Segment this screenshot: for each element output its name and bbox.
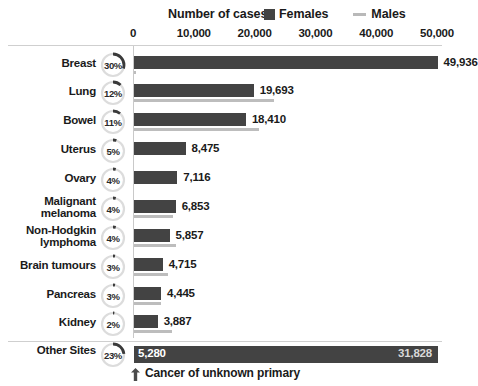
x-tick-label: 40,000 <box>359 27 393 39</box>
bar-value-label: 3,887 <box>164 315 192 327</box>
category-label-line: Ovary <box>0 172 96 184</box>
category-label-line: Breast <box>0 57 96 69</box>
bar-males <box>134 302 161 305</box>
legend-line-swatch-icon <box>353 13 366 16</box>
bar-value-label: 5,857 <box>176 229 204 241</box>
bar-females <box>134 287 161 300</box>
bar-males <box>134 330 172 333</box>
bar-value-label: 19,693 <box>260 84 294 96</box>
table-row: Uterus5%8,475 <box>0 142 448 169</box>
category-label-line: Non-Hodgkin <box>0 225 96 237</box>
axis-title: Number of cases <box>168 7 267 21</box>
bar-females <box>134 171 177 184</box>
percent-badge-label: 12% <box>99 79 127 107</box>
footnote: Cancer of unknown primary <box>131 366 300 380</box>
bar-females <box>134 113 246 126</box>
percent-badge-label: 2% <box>99 310 127 338</box>
table-row: Malignantmelanoma4%6,853 <box>0 200 448 227</box>
table-row: Breast30%49,936 <box>0 56 448 83</box>
category-label: Malignantmelanoma <box>0 196 96 219</box>
bar-other-sites: 5,280 31,828 <box>134 346 438 363</box>
category-label-other-sites: Other Sites <box>0 344 96 356</box>
bar-females <box>134 229 170 242</box>
percent-badge-label-other-sites: 23% <box>99 341 127 369</box>
bar-value-other-sites-left: 5,280 <box>138 347 166 359</box>
arrow-up-icon <box>131 367 140 380</box>
percent-badge-label: 4% <box>99 224 127 252</box>
footnote-text: Cancer of unknown primary <box>145 366 300 380</box>
category-label-line: lymphoma <box>0 237 96 249</box>
legend-item-females: Females <box>264 7 328 21</box>
table-row: Kidney2%3,887 <box>0 315 448 342</box>
bar-males <box>134 215 173 218</box>
x-tick-label: 0 <box>130 27 136 39</box>
category-label: Brain tumours <box>0 259 96 271</box>
chart-legend: Females Males <box>264 7 406 21</box>
table-row: Pancreas3%4,445 <box>0 287 448 314</box>
percent-badge-label: 5% <box>99 137 127 165</box>
bar-females <box>134 200 176 213</box>
category-label-line: melanoma <box>0 208 96 220</box>
x-tick-label: 30,000 <box>298 27 332 39</box>
bar-females <box>134 142 186 155</box>
percent-badge: 4% <box>99 166 127 194</box>
legend-label-females: Females <box>279 7 328 21</box>
category-label: Uterus <box>0 143 96 155</box>
percent-badge-label: 11% <box>99 108 127 136</box>
bar-males <box>134 71 136 74</box>
top-divider <box>8 45 442 46</box>
x-tick-label: 10,000 <box>177 27 211 39</box>
percent-badge-label: 30% <box>99 51 127 79</box>
bar-value-label: 6,853 <box>182 200 210 212</box>
percent-badge: 30% <box>99 51 127 79</box>
category-label: Bowel <box>0 114 96 126</box>
category-label-line: Kidney <box>0 316 96 328</box>
percent-badge-other-sites: 23% <box>99 341 127 369</box>
category-label: Non-Hodgkinlymphoma <box>0 225 96 248</box>
percent-badge: 12% <box>99 79 127 107</box>
bar-males <box>134 244 176 247</box>
bar-males <box>134 273 168 276</box>
bar-females <box>134 56 438 69</box>
category-label-line: Brain tumours <box>0 259 96 271</box>
bar-value-label: 7,116 <box>183 171 210 183</box>
table-row: Bowel11%18,410 <box>0 113 448 140</box>
legend-square-swatch-icon <box>264 9 275 20</box>
table-row: Non-Hodgkinlymphoma4%5,857 <box>0 229 448 256</box>
percent-badge: 2% <box>99 310 127 338</box>
percent-badge: 5% <box>99 137 127 165</box>
x-tick-label: 50,000 <box>420 27 454 39</box>
bar-males <box>134 99 274 102</box>
bar-value-other-sites-right: 31,828 <box>398 347 432 359</box>
category-label-line: Malignant <box>0 196 96 208</box>
bar-value-label: 18,410 <box>252 113 286 125</box>
legend-item-males: Males <box>352 7 405 21</box>
table-row-other-sites: Other Sites 23% 5,280 31,828 <box>0 344 448 366</box>
bar-females <box>134 84 254 97</box>
category-label: Ovary <box>0 172 96 184</box>
chart-header: Number of cases Females Males <box>0 7 448 27</box>
percent-badge: 3% <box>99 282 127 310</box>
category-label: Breast <box>0 57 96 69</box>
x-axis-tick-labels: 010,00020,00030,00040,00050,000 <box>0 27 448 43</box>
category-label: Pancreas <box>0 288 96 300</box>
category-label-line: Bowel <box>0 114 96 126</box>
percent-badge-label: 3% <box>99 282 127 310</box>
legend-label-males: Males <box>371 7 405 21</box>
percent-badge: 11% <box>99 108 127 136</box>
bar-females <box>134 258 163 271</box>
percent-badge-label: 4% <box>99 195 127 223</box>
category-label-line: Pancreas <box>0 288 96 300</box>
percent-badge-label: 4% <box>99 166 127 194</box>
table-row: Lung12%19,693 <box>0 84 448 111</box>
bar-value-label: 8,475 <box>192 142 220 154</box>
table-row: Brain tumours3%4,715 <box>0 258 448 285</box>
percent-badge: 4% <box>99 224 127 252</box>
percent-badge: 4% <box>99 195 127 223</box>
category-label-line: Uterus <box>0 143 96 155</box>
category-label-line: Lung <box>0 85 96 97</box>
bar-value-label: 4,715 <box>169 258 197 270</box>
table-row: Ovary4%7,116 <box>0 171 448 198</box>
bar-value-label: 49,936 <box>444 56 478 68</box>
